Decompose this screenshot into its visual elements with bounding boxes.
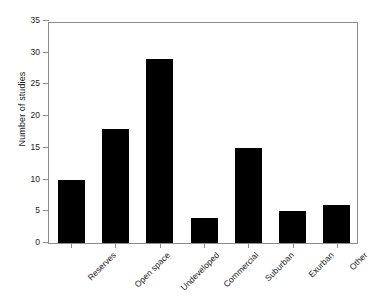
y-axis-tick: 30 (43, 52, 49, 53)
x-axis-tick-label: Reserves (86, 250, 118, 282)
bar (279, 211, 306, 243)
y-axis-tick: 15 (43, 147, 49, 148)
bar (323, 205, 350, 243)
y-axis-tick-label: 25 (31, 78, 40, 89)
y-axis-tick: 25 (43, 83, 49, 84)
bar (102, 129, 129, 243)
y-axis-tick: 0 (43, 242, 49, 243)
x-axis-tick (160, 243, 161, 248)
plot-area: 05101520253035 (48, 22, 358, 244)
x-axis-tick-label: Undeveloped (178, 250, 221, 293)
y-axis-tick-label: 10 (31, 174, 40, 185)
x-axis-tick (204, 243, 205, 248)
y-axis-tick-label: 5 (35, 205, 40, 216)
y-axis-tick-label: 20 (31, 110, 40, 121)
x-axis-tick-label: Commercial (221, 250, 260, 289)
y-axis-title: Number of studies (17, 49, 27, 169)
x-axis-tick (337, 243, 338, 248)
bar (191, 218, 218, 243)
x-axis-tick (293, 243, 294, 248)
bar-chart-figure: Number of studies 05101520253035 Reserve… (0, 0, 373, 306)
x-axis-tick (71, 243, 72, 248)
x-axis-tick-label: Open space (133, 250, 172, 289)
y-axis-tick-label: 15 (31, 142, 40, 153)
y-axis-tick-label: 30 (31, 47, 40, 58)
x-axis-tick (115, 243, 116, 248)
bar (146, 59, 173, 243)
y-axis-tick: 20 (43, 115, 49, 116)
y-axis-tick-label: 35 (31, 15, 40, 26)
bar (58, 180, 85, 243)
y-axis-tick: 5 (43, 210, 49, 211)
x-axis-tick-label: Other (347, 250, 369, 272)
x-axis-tick (248, 243, 249, 248)
bar (235, 148, 262, 243)
y-axis-tick: 35 (43, 20, 49, 21)
y-axis-tick-label: 0 (35, 237, 40, 248)
x-axis-tick-label: Suburban (263, 250, 296, 283)
x-axis-tick-label: Exurban (306, 250, 335, 279)
y-axis-tick: 10 (43, 179, 49, 180)
